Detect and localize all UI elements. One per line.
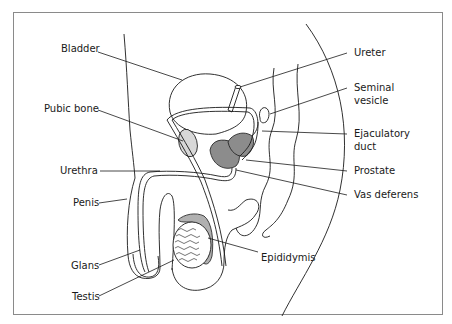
- label-prostate: Prostate: [354, 165, 395, 176]
- label-bladder: Bladder: [61, 43, 101, 54]
- label-penis: Penis: [73, 197, 99, 208]
- label-urethra: Urethra: [60, 165, 98, 176]
- label-ejaculatory-duct-2: duct: [354, 141, 376, 152]
- leader-seminal-vesicle: [270, 88, 347, 114]
- leader-prostate: [246, 160, 347, 171]
- label-testis: Testis: [71, 291, 100, 302]
- label-glans: Glans: [71, 260, 99, 271]
- seminal-vesicle-shape: [259, 108, 269, 123]
- label-vas-deferens: Vas deferens: [354, 189, 418, 200]
- rectum-wall-2: [263, 64, 300, 237]
- anatomy-diagram: Bladder Pubic bone Urethra Penis Glans T…: [0, 0, 452, 324]
- leader-epididymis: [208, 238, 258, 252]
- leader-penis: [99, 199, 127, 203]
- label-ejaculatory-duct: Ejaculatory: [354, 128, 410, 139]
- label-pubic-bone: Pubic bone: [44, 103, 99, 114]
- leader-ejaculatory-duct: [262, 131, 347, 134]
- label-ureter: Ureter: [354, 47, 386, 58]
- label-seminal-vesicle-2: vesicle: [354, 95, 389, 106]
- leader-testis: [99, 260, 174, 296]
- label-epididymis: Epididymis: [261, 252, 316, 263]
- leader-bladder: [98, 52, 182, 80]
- abdomen-outline: [124, 34, 135, 178]
- label-seminal-vesicle: Seminal: [354, 82, 394, 93]
